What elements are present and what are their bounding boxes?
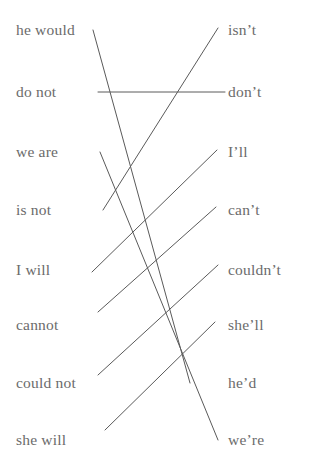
connection-line [93,30,190,383]
right-term-label: she’ll [228,317,264,333]
connection-line [92,150,217,272]
right-term-5[interactable]: she’ll [228,317,264,333]
left-term-6[interactable]: could not [16,375,76,391]
left-term-label: he would [16,22,75,38]
connection-lines-layer [0,0,310,473]
right-term-3[interactable]: can’t [228,202,260,218]
connection-lines-group [92,28,225,440]
right-term-label: don’t [228,84,261,100]
connection-line [98,265,218,375]
right-term-4[interactable]: couldn’t [228,262,281,278]
left-term-label: do not [16,84,56,100]
right-term-label: isn’t [228,22,256,38]
right-term-label: he’d [228,375,256,391]
left-term-3[interactable]: is not [16,202,51,218]
left-term-1[interactable]: do not [16,84,56,100]
left-term-label: I will [16,262,50,278]
connection-line [103,28,218,210]
left-term-label: could not [16,375,76,391]
right-term-label: can’t [228,202,260,218]
left-term-label: is not [16,202,51,218]
right-term-7[interactable]: we’re [228,432,264,448]
left-term-5[interactable]: cannot [16,317,59,333]
right-term-label: I’ll [228,144,248,160]
left-term-0[interactable]: he would [16,22,75,38]
right-term-6[interactable]: he’d [228,375,256,391]
left-term-2[interactable]: we are [16,144,58,160]
left-term-4[interactable]: I will [16,262,50,278]
left-term-label: she will [16,432,66,448]
right-term-1[interactable]: don’t [228,84,261,100]
left-term-7[interactable]: she will [16,432,66,448]
right-term-2[interactable]: I’ll [228,144,248,160]
right-term-0[interactable]: isn’t [228,22,256,38]
worksheet-page: he would do not we are is not I will can… [0,0,310,473]
connection-line [105,322,215,430]
right-term-label: couldn’t [228,262,281,278]
left-term-label: cannot [16,317,59,333]
connection-line [98,207,216,312]
right-term-label: we’re [228,432,264,448]
connection-line [100,152,218,440]
left-term-label: we are [16,144,58,160]
